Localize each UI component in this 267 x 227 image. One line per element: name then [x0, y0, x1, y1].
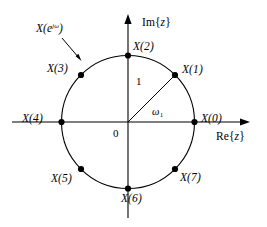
sample-label-0: X(0) [201, 113, 222, 125]
sample-label-2: X(2) [133, 41, 154, 53]
sample-dot-3 [78, 72, 84, 78]
imaginary-axis-label: Im{z} [142, 17, 171, 29]
sample-dot-0 [191, 119, 197, 125]
origin-label: 0 [113, 128, 119, 139]
sample-dot-1 [172, 72, 178, 78]
radius-label: 1 [136, 76, 142, 87]
real-axis-label: Re{z} [216, 131, 245, 143]
sample-label-3: X(3) [47, 63, 68, 75]
sample-label-1: X(1) [182, 64, 203, 76]
sample-label-7: X(7) [180, 172, 201, 184]
sample-label-4: X(4) [22, 113, 43, 125]
dtft-transform-label: X(ejω) [36, 23, 63, 35]
sample-dot-4 [58, 119, 64, 125]
sample-label-6: X(6) [121, 193, 142, 205]
sample-dot-5 [78, 166, 84, 172]
angle-omega-label: ω1 [152, 107, 163, 118]
sample-dot-2 [125, 52, 131, 58]
sample-dot-6 [125, 185, 131, 191]
sample-dot-7 [172, 166, 178, 172]
sample-label-5: X(5) [51, 173, 72, 185]
transform-leader-line [62, 38, 82, 61]
z-plane-unit-circle-figure: Im{z} Re{z} 0 1 ω1 X(ejω) X(0) X(1) X(2)… [0, 0, 267, 227]
